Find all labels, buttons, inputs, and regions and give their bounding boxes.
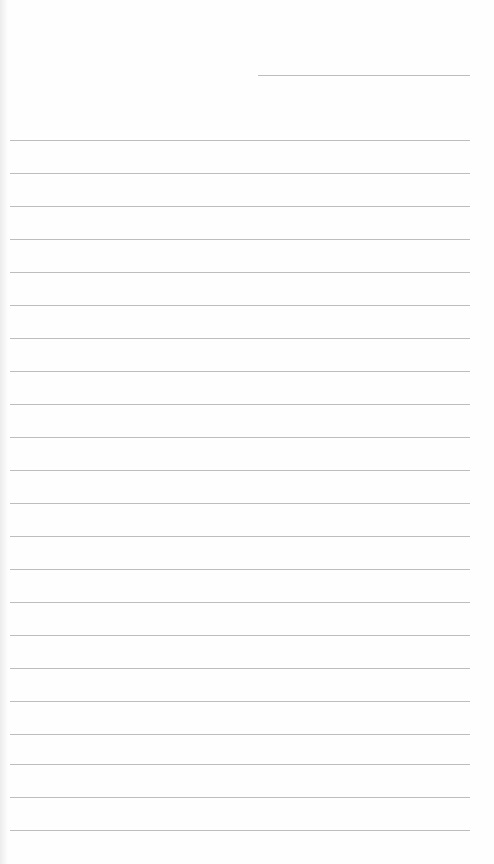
ruled-line	[10, 338, 470, 339]
ruled-line	[10, 668, 470, 669]
ruled-line	[10, 140, 470, 141]
ruled-line	[10, 503, 470, 504]
ruled-line	[10, 305, 470, 306]
ruled-line	[10, 470, 470, 471]
ruled-line	[10, 437, 470, 438]
ruled-line	[10, 635, 470, 636]
ruled-line	[10, 206, 470, 207]
ruled-line	[10, 173, 470, 174]
ruled-line	[10, 602, 470, 603]
ruled-line	[10, 272, 470, 273]
ruled-line	[10, 734, 470, 735]
lined-paper-page	[0, 0, 494, 864]
ruled-line	[10, 797, 470, 798]
ruled-line	[10, 371, 470, 372]
ruled-line	[10, 830, 470, 831]
ruled-line	[10, 239, 470, 240]
ruled-line	[10, 569, 470, 570]
ruled-line	[10, 764, 470, 765]
ruled-line	[10, 404, 470, 405]
ruled-line	[10, 536, 470, 537]
page-edge-shadow	[0, 0, 8, 864]
header-line	[258, 75, 470, 76]
ruled-line	[10, 701, 470, 702]
